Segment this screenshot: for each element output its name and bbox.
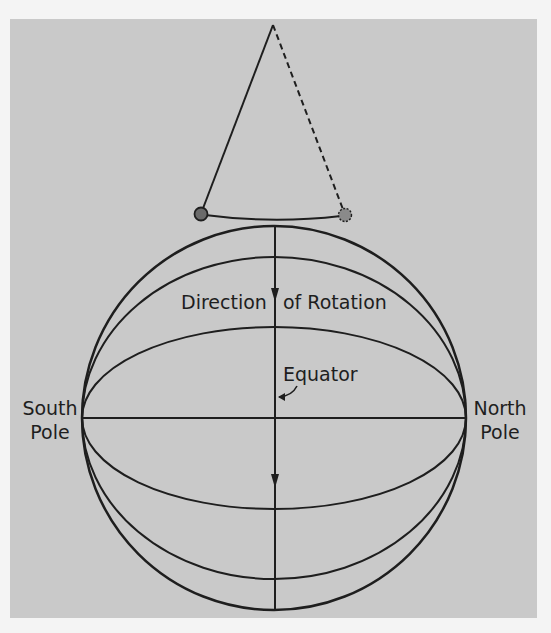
south-pole-label: South Pole: [20, 396, 80, 444]
equator-arrowhead-icon: [278, 393, 285, 401]
direction-label: Direction: [181, 290, 267, 314]
pendulum-sphere-diagram: [0, 0, 551, 633]
north-pole-label: North Pole: [470, 396, 530, 444]
pendulum-string-dashed: [273, 25, 344, 212]
of-rotation-label: of Rotation: [283, 290, 387, 314]
equator-label: Equator: [283, 362, 358, 386]
pendulum-swing-arc: [205, 215, 341, 220]
arrow-down-icon: [271, 474, 279, 488]
south-pole-line1: South: [20, 396, 80, 420]
pendulum-bob-right: [339, 209, 352, 222]
pendulum-string-solid: [202, 25, 273, 211]
pendulum-bob-left: [195, 208, 208, 221]
north-pole-line2: Pole: [470, 420, 530, 444]
north-pole-line1: North: [470, 396, 530, 420]
arrow-down-icon: [271, 288, 279, 302]
south-pole-line2: Pole: [20, 420, 80, 444]
